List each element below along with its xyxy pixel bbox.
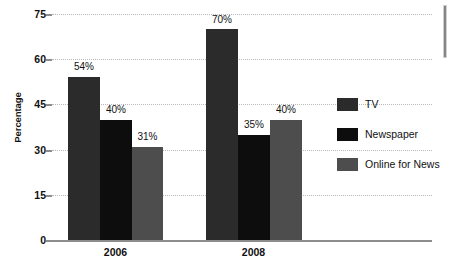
y-tick-label-30: 30 [24,145,46,156]
y-axis-title: Percentage [12,88,23,148]
y-tick-label-15: 15 [24,190,46,201]
legend-item-tv[interactable]: TV [337,96,452,118]
bar-2008-online[interactable] [270,120,302,241]
legend-swatch-newspaper-icon [337,128,358,141]
bar-2006-online[interactable] [132,147,163,240]
bar-value-2008-newspaper: 35% [238,120,270,130]
bar-2006-tv[interactable] [68,77,100,240]
x-axis-label-2008: 2008 [206,246,301,258]
x-axis-label-2006: 2006 [68,246,163,258]
bar-value-2008-tv: 70% [206,15,238,25]
legend-label-tv: TV [365,98,378,111]
bar-value-2006-online: 31% [132,132,163,142]
legend-label-online: Online for News [365,158,440,171]
x-axis-line [52,240,432,242]
y-tick-label-45: 45 [24,99,46,110]
bar-value-2006-newspaper: 40% [100,105,132,115]
scrollbar-thumb[interactable] [443,5,447,58]
bar-value-2006-tv: 54% [68,62,100,72]
bar-value-2008-online: 40% [270,105,302,115]
bar-2006-newspaper[interactable] [100,120,132,241]
legend-item-newspaper[interactable]: Newspaper [337,126,452,148]
legend-swatch-online-icon [337,158,358,171]
legend-label-newspaper: Newspaper [365,128,418,141]
y-tick-label-75: 75 [24,9,46,20]
y-axis-tick-labels: 75 60 45 30 15 0 [22,0,46,272]
y-tick-label-60: 60 [24,54,46,65]
y-tick-label-0: 0 [24,235,46,246]
bar-2008-newspaper[interactable] [238,135,270,241]
legend-item-online[interactable]: Online for News [337,156,452,178]
bar-2008-tv[interactable] [206,29,238,240]
legend: TV Newspaper Online for News [337,96,452,186]
bar-chart: Percentage 75 60 45 30 15 0 54% 40% 31% [0,0,455,272]
legend-swatch-tv-icon [337,98,358,111]
